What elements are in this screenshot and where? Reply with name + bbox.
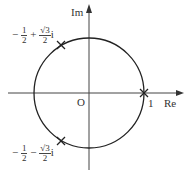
fraction: 12 [21, 144, 28, 163]
denominator: 2 [39, 36, 50, 45]
point-one-label: 1 [148, 98, 154, 109]
cross-marker-icon-upper [57, 41, 65, 49]
re-axis-label: Re [164, 98, 176, 109]
sign: − [12, 28, 18, 40]
imag-unit: i [51, 146, 54, 158]
denominator: 2 [21, 36, 28, 45]
sign: − [12, 146, 18, 158]
fraction: √32 [39, 26, 50, 45]
imag-unit: i [51, 28, 54, 40]
origin-label: O [77, 97, 85, 108]
real-axis-arrow-icon [176, 90, 184, 96]
cross-marker-icon-lower [57, 137, 65, 145]
fraction: 12 [21, 26, 28, 45]
denominator: 2 [39, 154, 50, 163]
point-lower-label: − 12 − √32i [12, 144, 54, 163]
im-axis-label: Im [71, 7, 83, 18]
imaginary-axis-arrow-icon [86, 4, 92, 13]
point-upper-label: − 12 + √32i [12, 26, 54, 45]
sign: + [30, 28, 36, 40]
denominator: 2 [21, 154, 28, 163]
sign: − [30, 146, 36, 158]
fraction: √32 [39, 144, 50, 163]
